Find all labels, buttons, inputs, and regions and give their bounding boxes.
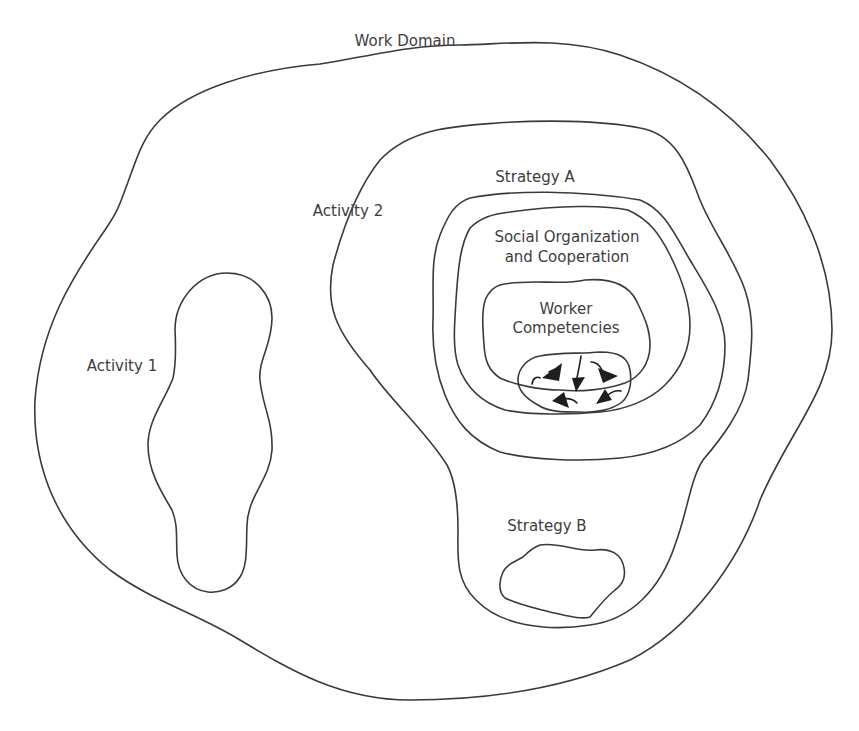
social-organization-label-line2: and Cooperation xyxy=(505,248,630,266)
swirling-arrows-icon xyxy=(532,356,621,408)
worker-competencies-label-line2: Competencies xyxy=(512,319,619,337)
strategy-b-region: Strategy B xyxy=(500,517,625,618)
social-organization-label-line1: Social Organization xyxy=(494,228,639,246)
activity-2-boundary xyxy=(330,121,751,627)
activity-1-boundary xyxy=(148,273,272,592)
strategy-a-label: Strategy A xyxy=(495,168,575,186)
worker-competencies-region: Worker Competencies xyxy=(483,280,650,391)
activity-2-region: Activity 2 xyxy=(313,121,752,627)
worker-competencies-label-line1: Worker xyxy=(540,300,594,318)
work-domain-diagram: Work Domain Activity 1 Activity 2 Strate… xyxy=(0,0,859,731)
work-domain-label: Work Domain xyxy=(355,32,456,50)
strategy-b-boundary xyxy=(500,544,625,617)
activity-1-region: Activity 1 xyxy=(87,273,272,592)
core-region xyxy=(518,352,631,412)
strategy-b-label: Strategy B xyxy=(507,517,586,535)
activity-2-label: Activity 2 xyxy=(313,202,383,220)
activity-1-label: Activity 1 xyxy=(87,357,157,375)
